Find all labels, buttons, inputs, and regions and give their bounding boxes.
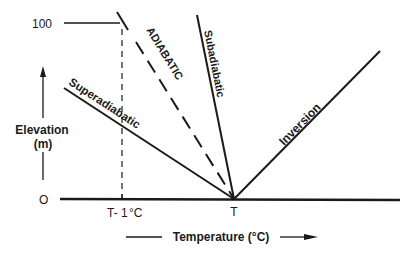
adiabatic-line-top-tick — [117, 12, 128, 30]
x-axis-label-temperature: Temperature (°C) — [173, 230, 270, 244]
label-inversion: Inversion — [276, 100, 323, 148]
tick-label-t: T — [230, 205, 238, 219]
label-superadiabatic: Superadiabatic — [67, 76, 143, 131]
superadiabatic-line — [64, 88, 234, 199]
tick-label-100: 100 — [32, 17, 52, 31]
tick-label-t-minus-1: T- 1 — [107, 206, 128, 220]
temperature-arrow-head-icon — [304, 234, 318, 240]
label-adiabatic: ADIABATIC — [144, 25, 186, 82]
baseline-axis — [60, 199, 400, 200]
elevation-arrow-head-icon — [40, 66, 46, 77]
tick-label-t-minus-1-unit: °C — [129, 206, 143, 220]
y-axis-label-unit: (m) — [34, 137, 53, 151]
tick-label-0: O — [39, 193, 48, 207]
y-axis-label-elevation: Elevation — [15, 123, 68, 137]
lapse-rate-diagram: 100 O Elevation (m) T- 1 °C T Temperatur… — [0, 0, 415, 258]
